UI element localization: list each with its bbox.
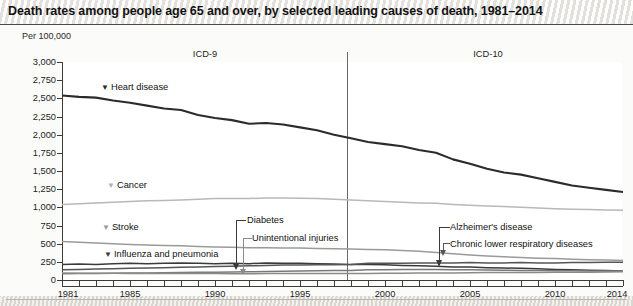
callout-arrow-unintentional-injuries	[240, 269, 246, 275]
y-tick-label: 3,000	[10, 57, 56, 67]
series-label-text-heart-disease: Heart disease	[111, 82, 168, 92]
y-tick-label: 1,750	[10, 148, 56, 158]
era-label-icd9: ICD-9	[193, 49, 217, 59]
callout-arrow-alzheimers	[436, 260, 442, 267]
x-axis-line-lower	[62, 286, 623, 287]
series-label-influenza-and-pneumonia: ▼Influenza and pneumonia	[104, 249, 218, 259]
x-tick-label: 2005	[460, 289, 481, 299]
marker-triangle-influenza-and-pneumonia: ▼	[104, 250, 112, 259]
footer-rule	[6, 299, 627, 300]
y-tick-label: 1,250	[10, 184, 56, 194]
series-label-text-cancer: Cancer	[117, 180, 147, 190]
y-tick-label: 2,000	[10, 130, 56, 140]
y-tick-label: 2,500	[10, 93, 56, 103]
callout-label-diabetes: Diabetes	[247, 215, 284, 225]
series-label-heart-disease: ▼Heart disease	[101, 82, 168, 92]
y-tick-label: 0	[10, 275, 56, 285]
page-title: Death rates among people age 65 and over…	[8, 4, 543, 18]
callout-arrow-diabetes	[233, 264, 239, 270]
callout-label-alzheimers-disease: Alzheimer's disease	[450, 222, 532, 232]
series-label-cancer: ▼Cancer	[107, 180, 147, 190]
x-tick-label: 2014	[607, 289, 628, 299]
callout-leader-clrd-horizontal	[443, 243, 450, 244]
x-tick	[623, 280, 624, 286]
x-tick-label: 1995	[290, 289, 311, 299]
era-label-icd10: ICD-10	[473, 49, 502, 59]
y-tick-label: 1,000	[10, 202, 56, 212]
series-label-stroke: ▼Stroke	[102, 222, 139, 232]
marker-triangle-stroke: ▼	[102, 223, 110, 232]
x-tick-label: 2010	[545, 289, 566, 299]
callout-label-unintentional-injuries: Unintentional injuries	[252, 233, 338, 243]
marker-triangle-heart-disease: ▼	[101, 83, 109, 92]
x-tick-label: 2000	[375, 289, 396, 299]
y-tick-label: 500	[10, 239, 56, 249]
y-tick-label: 750	[10, 221, 56, 231]
series-label-text-stroke: Stroke	[112, 222, 139, 232]
y-axis-unit-label: Per 100,000	[22, 31, 71, 41]
callout-leader-alzheimers-horizontal	[439, 227, 450, 228]
callout-arrow-clrd	[440, 250, 446, 256]
y-tick-label: 250	[10, 257, 56, 267]
series-line-cancer	[62, 198, 623, 210]
x-tick-label: 1990	[205, 289, 226, 299]
callout-leader-unintentional-injuries-vertical	[243, 238, 244, 270]
y-tick-label: 2,750	[10, 75, 56, 85]
series-label-text-influenza-and-pneumonia: Influenza and pneumonia	[114, 249, 218, 259]
y-tick-label: 2,250	[10, 112, 56, 122]
series-line-heart-disease	[62, 95, 623, 192]
y-tick-label: 1,500	[10, 166, 56, 176]
callout-label-chronic-lower-respiratory-diseases: Chronic lower respiratory diseases	[450, 239, 593, 249]
page-background: Death rates among people age 65 and over…	[0, 0, 633, 306]
callout-leader-diabetes-horizontal	[236, 220, 246, 221]
x-tick-label: 1985	[120, 289, 141, 299]
callout-leader-diabetes-vertical	[236, 220, 237, 265]
callout-leader-unintentional-injuries-horizontal	[243, 238, 252, 239]
marker-triangle-cancer: ▼	[107, 181, 115, 190]
x-tick-label: 1981	[58, 289, 79, 299]
